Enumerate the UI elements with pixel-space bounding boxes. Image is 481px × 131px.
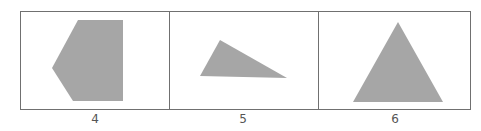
isosceles-triangle-shape xyxy=(353,22,443,102)
shape-panels-figure: 4 5 6 xyxy=(0,0,481,131)
panel-label-4: 4 xyxy=(85,112,105,126)
panel-label-6: 6 xyxy=(385,112,405,126)
pentagon-shape xyxy=(52,20,123,101)
scalene-triangle-shape xyxy=(200,40,287,78)
panel-label-5: 5 xyxy=(233,112,253,126)
